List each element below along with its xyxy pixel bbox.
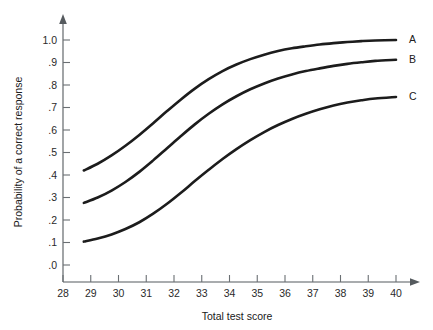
y-tick-label: .7 — [48, 101, 57, 113]
x-axis — [63, 278, 420, 286]
series-label-b: B — [409, 53, 416, 65]
y-tick-label: .8 — [48, 79, 57, 91]
curve-group — [84, 40, 396, 242]
x-tick-label: 40 — [390, 287, 402, 299]
y-tick-label: .5 — [48, 146, 57, 158]
series-label-group: ABC — [409, 33, 417, 102]
y-tick-label: .3 — [48, 191, 57, 203]
x-tick-label: 37 — [307, 287, 319, 299]
chart-container: .0.1.2.3.4.5.6.7.8.91.0 2829303132333435… — [0, 0, 433, 330]
series-label-c: C — [409, 90, 417, 102]
x-axis-title: Total test score — [202, 310, 273, 322]
y-tick-label: .0 — [48, 259, 57, 271]
probability-curves-chart: .0.1.2.3.4.5.6.7.8.91.0 2829303132333435… — [0, 0, 433, 330]
x-tick-label: 30 — [113, 287, 125, 299]
x-tick-label: 29 — [85, 287, 97, 299]
y-tick-label: .4 — [48, 169, 57, 181]
curve-a — [84, 40, 396, 171]
x-tick-label: 35 — [251, 287, 263, 299]
y-tick-label: .9 — [48, 56, 57, 68]
y-axis-ticks: .0.1.2.3.4.5.6.7.8.91.0 — [42, 34, 70, 271]
y-tick-label: 1.0 — [42, 34, 57, 46]
x-tick-label: 38 — [335, 287, 347, 299]
y-axis-title: Probability of a correct response — [12, 77, 24, 228]
y-axis-arrow-icon — [59, 14, 67, 24]
y-tick-label: .2 — [48, 214, 57, 226]
y-axis — [59, 14, 67, 282]
curve-c — [84, 97, 396, 242]
x-tick-label: 39 — [362, 287, 374, 299]
x-tick-label: 31 — [140, 287, 152, 299]
series-label-a: A — [409, 33, 416, 45]
y-tick-label: .1 — [48, 236, 57, 248]
x-axis-ticks: 28293031323334353637383940 — [57, 275, 402, 299]
x-tick-label: 36 — [279, 287, 291, 299]
x-tick-label: 33 — [196, 287, 208, 299]
x-tick-label: 32 — [168, 287, 180, 299]
x-axis-arrow-icon — [410, 278, 420, 286]
curve-b — [84, 60, 396, 203]
x-tick-label: 34 — [224, 287, 236, 299]
y-tick-label: .6 — [48, 124, 57, 136]
x-tick-label: 28 — [57, 287, 69, 299]
